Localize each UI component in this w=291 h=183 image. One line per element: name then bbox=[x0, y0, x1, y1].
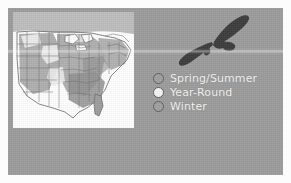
hawk-body bbox=[179, 15, 249, 65]
legend-item-spring-summer[interactable]: Spring/Summer bbox=[153, 71, 278, 85]
content-panel: Spring/Summer Year-Round Winter bbox=[8, 8, 283, 175]
legend-label-spring-summer: Spring/Summer bbox=[170, 73, 257, 84]
legend: Spring/Summer Year-Round Winter bbox=[153, 71, 278, 113]
legend-item-winter[interactable]: Winter bbox=[153, 99, 278, 113]
legend-swatch-spring-summer bbox=[153, 73, 164, 84]
legend-swatch-year-round bbox=[153, 87, 164, 98]
legend-label-year-round: Year-Round bbox=[170, 87, 232, 98]
legend-item-year-round[interactable]: Year-Round bbox=[153, 85, 278, 99]
legend-swatch-winter bbox=[153, 101, 164, 112]
range-map bbox=[13, 12, 134, 128]
soaring-hawk-silhouette-icon bbox=[174, 12, 252, 74]
infographic-root: Spring/Summer Year-Round Winter bbox=[0, 0, 291, 183]
legend-label-winter: Winter bbox=[170, 101, 207, 112]
